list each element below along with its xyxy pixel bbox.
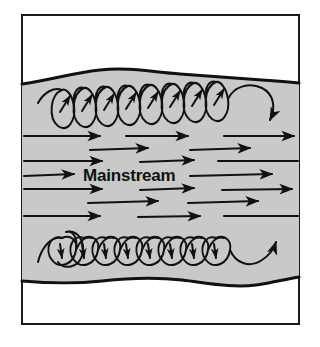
flow-diagram: Mainstream xyxy=(0,0,320,347)
mainstream-label: Mainstream xyxy=(83,166,176,185)
mainstream-row xyxy=(24,216,298,217)
figure-page: Mainstream xyxy=(0,0,320,347)
mainstream-row xyxy=(24,160,298,162)
